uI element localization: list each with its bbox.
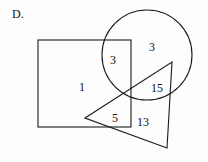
region-count-label: 3 bbox=[149, 41, 155, 53]
triangle-shape bbox=[85, 62, 172, 148]
region-count-label: 3 bbox=[110, 54, 116, 66]
region-count-label: 13 bbox=[137, 116, 149, 128]
region-count-label: 1 bbox=[79, 81, 85, 93]
venn-diagram-svg bbox=[0, 0, 208, 162]
region-count-label: 15 bbox=[151, 82, 163, 94]
venn-diagram-figure: D. 33115513 bbox=[0, 0, 208, 162]
region-count-label: 5 bbox=[112, 112, 118, 124]
